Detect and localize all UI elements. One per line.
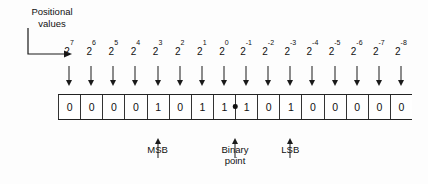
positional-values-label-line1: Positional <box>14 6 90 18</box>
positional-value-4: 23 <box>147 46 169 66</box>
down-arrow-icon-7 <box>213 66 235 88</box>
positional-value-base-11: 2 <box>307 46 313 58</box>
positional-value-base-8: 2 <box>240 46 246 58</box>
marker-lsb-label: LSB <box>281 144 299 155</box>
positional-value-base-13: 2 <box>351 46 357 58</box>
positional-value-base-2: 2 <box>109 46 115 58</box>
down-arrow-icon-14 <box>368 66 390 88</box>
positional-value-base-7: 2 <box>219 46 225 58</box>
down-arrow-icon-0 <box>58 66 80 88</box>
positional-value-2: 25 <box>102 46 124 66</box>
down-arrow-icon-2 <box>102 66 124 88</box>
positional-value-14: 2-7 <box>368 46 390 66</box>
bit-cell-9: 0 <box>258 95 280 119</box>
bit-cell-14: 0 <box>369 95 391 119</box>
positional-value-base-9: 2 <box>262 46 268 58</box>
bit-cell-0: 0 <box>58 95 81 119</box>
marker-binary-point-label: Binary <box>222 144 249 155</box>
positional-value-6: 21 <box>191 46 213 66</box>
bit-cell-4: 1 <box>148 95 170 119</box>
down-arrow-icon-6 <box>191 66 213 88</box>
bit-cell-12: 0 <box>325 95 347 119</box>
bit-cell-11: 0 <box>302 95 324 119</box>
positional-value-base-3: 2 <box>131 46 137 58</box>
positional-value-12: 2-5 <box>324 46 346 66</box>
down-arrow-icon-3 <box>124 66 146 88</box>
down-arrow-icon-13 <box>346 66 368 88</box>
positional-value-5: 22 <box>169 46 191 66</box>
down-arrow-icon-4 <box>147 66 169 88</box>
positional-value-10: 2-3 <box>279 46 301 66</box>
positional-value-base-5: 2 <box>175 46 181 58</box>
positional-value-3: 24 <box>124 46 146 66</box>
positional-value-base-1: 2 <box>86 46 92 58</box>
bit-cell-15: 0 <box>391 95 412 119</box>
positional-value-9: 2-2 <box>257 46 279 66</box>
down-arrow-icon-11 <box>301 66 323 88</box>
positional-value-base-4: 2 <box>153 46 159 58</box>
down-arrow-row <box>58 66 412 88</box>
bit-cell-13: 0 <box>347 95 369 119</box>
marker-msb-label: MSB <box>147 144 168 155</box>
down-arrow-icon-9 <box>257 66 279 88</box>
down-arrow-icon-10 <box>279 66 301 88</box>
positional-value-8: 2-1 <box>235 46 257 66</box>
positional-value-base-12: 2 <box>329 46 335 58</box>
positional-value-11: 2-4 <box>301 46 323 66</box>
bit-cell-6: 1 <box>192 95 214 119</box>
down-arrow-icon-5 <box>169 66 191 88</box>
figure-canvas: Positional values 27262524232221202-12-2… <box>0 0 428 184</box>
down-arrow-icon-12 <box>324 66 346 88</box>
positional-value-15: 2-8 <box>390 46 412 66</box>
down-arrow-icon-1 <box>80 66 102 88</box>
positional-value-13: 2-6 <box>346 46 368 66</box>
positional-value-1: 26 <box>80 46 102 66</box>
positional-value-base-0: 2 <box>64 46 70 58</box>
positional-value-base-6: 2 <box>197 46 203 58</box>
bit-cell-3: 0 <box>125 95 147 119</box>
marker-binary-point-label-line2: point <box>222 155 249 166</box>
positional-value-base-15: 2 <box>395 46 401 58</box>
positional-value-base-10: 2 <box>284 46 290 58</box>
bit-cell-2: 0 <box>103 95 125 119</box>
bit-cell-10: 1 <box>280 95 302 119</box>
bit-cell-1: 0 <box>81 95 103 119</box>
positional-value-7: 20 <box>213 46 235 66</box>
down-arrow-icon-8 <box>235 66 257 88</box>
positional-value-base-14: 2 <box>373 46 379 58</box>
bit-cell-5: 0 <box>170 95 192 119</box>
binary-point-dot-icon <box>233 104 238 109</box>
down-arrow-icon-15 <box>390 66 412 88</box>
positional-value-0: 27 <box>58 46 80 66</box>
positional-values-row: 27262524232221202-12-22-32-42-52-62-72-8 <box>58 46 412 66</box>
bit-cell-8: 1 <box>236 95 258 119</box>
